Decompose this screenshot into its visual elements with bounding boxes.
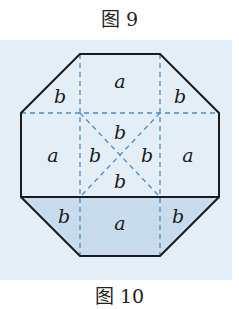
label-bottom-right: b xyxy=(172,205,184,227)
label-mid-right: a xyxy=(182,144,193,166)
label-top-left: b xyxy=(54,85,66,107)
label-center-left: b xyxy=(89,144,101,166)
label-center-right: b xyxy=(141,144,153,166)
label-top-right: b xyxy=(174,85,186,107)
label-center-bottom: b xyxy=(114,170,126,192)
label-center-top: b xyxy=(114,121,126,143)
octagon-diagram: b a b a b b b b a b a b xyxy=(0,0,239,309)
figure-10-caption: 图 10 xyxy=(0,281,239,308)
label-mid-left: a xyxy=(47,144,58,166)
label-bottom-middle: a xyxy=(114,212,125,234)
label-bottom-left: b xyxy=(58,205,70,227)
label-top-middle: a xyxy=(114,70,125,92)
